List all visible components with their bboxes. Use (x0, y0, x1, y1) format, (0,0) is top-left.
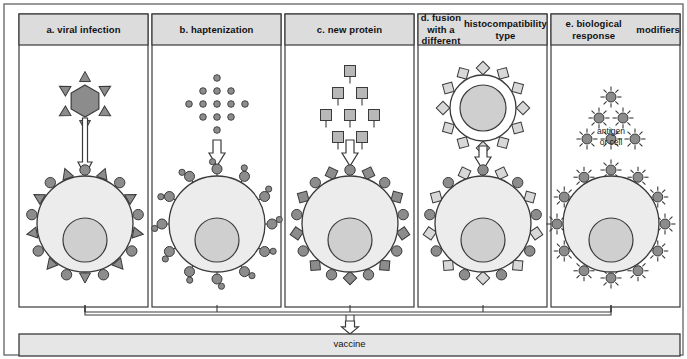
protein-square (369, 110, 380, 121)
hapten-dot (214, 88, 221, 95)
cell-receptor-circle (127, 246, 137, 256)
cell-receptor-circle (157, 219, 167, 229)
starburst-core (552, 219, 562, 229)
panel-header-d (418, 14, 547, 45)
foreign-receptor-square (443, 122, 455, 134)
starburst-core (594, 113, 604, 123)
starburst-core (606, 134, 616, 144)
hapten-dot (214, 127, 221, 134)
vaccine-arrow (342, 321, 359, 334)
hapten-dot (228, 88, 235, 95)
cell-receptor-square-light (513, 260, 523, 270)
starburst-core (653, 246, 663, 256)
foreign-receptor-square (457, 137, 469, 149)
panel-c (285, 14, 414, 307)
vaccine-connector (85, 305, 611, 334)
starburst-core (633, 266, 643, 276)
bound-hapten-dot (266, 186, 272, 192)
starburst-core (606, 273, 616, 283)
cell-nucleus-d (461, 218, 505, 262)
starburst-core (633, 172, 643, 182)
brm-starburst (601, 87, 622, 108)
cell-receptor-square-light (443, 260, 453, 270)
cell-receptor-circle (310, 177, 320, 187)
starburst-core (579, 172, 589, 182)
cell-receptor-circle (326, 270, 336, 280)
foreign-cell-nucleus (460, 85, 506, 131)
brm-starburst (601, 129, 622, 150)
starburst-core (559, 246, 569, 256)
foreign-receptor-square (497, 68, 509, 80)
cell-receptor-circle (240, 267, 250, 277)
hapten-dot (186, 101, 193, 108)
cell-receptor-square (380, 260, 390, 270)
panel-a (19, 14, 148, 307)
cell-receptor-circle (133, 209, 143, 219)
cell-receptor-circle (292, 209, 302, 219)
panel-d (418, 14, 547, 307)
cell-receptor-circle (240, 171, 250, 181)
cell-receptor-circle (267, 219, 277, 229)
cell-receptor-circle (260, 247, 270, 257)
cell-receptor-circle (496, 270, 506, 280)
foreign-receptor-square (512, 82, 524, 94)
cell-receptor-circle (363, 270, 373, 280)
cell-receptor-circle (45, 177, 55, 187)
bound-hapten-dot (162, 256, 168, 262)
bound-hapten-dot (276, 216, 282, 222)
cell-receptor-circle (61, 270, 71, 280)
bound-hapten-dot (249, 273, 255, 279)
bound-hapten-dot (152, 225, 158, 231)
starburst-core (630, 134, 640, 144)
cell-receptor-circle (185, 267, 195, 277)
hapten-dot (214, 75, 221, 82)
protein-square (357, 88, 368, 99)
cell-nucleus-c (328, 218, 372, 262)
cell-receptor-circle (212, 274, 222, 284)
foreign-receptor-square (457, 68, 469, 80)
cell-receptor-circle (212, 164, 222, 174)
starburst-core (618, 113, 628, 123)
bound-hapten-dot (158, 194, 164, 200)
hapten-dot (242, 101, 249, 108)
brm-starburst (625, 129, 646, 150)
cell-receptor-square (310, 260, 320, 270)
brm-starburst (577, 129, 598, 150)
cell-receptor-circle (431, 246, 441, 256)
bound-hapten-dot (241, 165, 247, 171)
hapten-dot (228, 114, 235, 121)
cell-receptor-circle (98, 270, 108, 280)
protein-square (333, 88, 344, 99)
cell-receptor-circle (478, 165, 488, 175)
foreign-receptor-square (512, 122, 524, 134)
panel-b (152, 14, 283, 307)
diagram-canvas (0, 0, 687, 359)
hapten-dot (214, 114, 221, 121)
bound-hapten-dot (209, 159, 215, 165)
cell-receptor-circle (185, 171, 195, 181)
cell-receptor-circle (531, 209, 541, 219)
cell-receptor-circle (260, 192, 270, 202)
panel-header-a (19, 14, 148, 45)
protein-square (345, 110, 356, 121)
starburst-core (559, 192, 569, 202)
hapten-dot (200, 88, 207, 95)
starburst-core (579, 266, 589, 276)
protein-square (333, 132, 344, 143)
foreign-receptor-square (497, 137, 509, 149)
cell-receptor-circle (380, 177, 390, 187)
hapten-dot (200, 101, 207, 108)
hapten-dot (200, 114, 207, 121)
starburst-core (606, 165, 616, 175)
cell-nucleus-e (589, 218, 633, 262)
starburst-core (606, 92, 616, 102)
cell-receptor-circle (33, 246, 43, 256)
immunology-vaccine-strategies-diagram: a. viral infection b. haptenization c. n… (0, 0, 687, 359)
bound-hapten-dot (187, 277, 193, 283)
protein-square (357, 132, 368, 143)
cell-receptor-circle (345, 165, 355, 175)
brm-starburst (589, 108, 610, 129)
cell-receptor-circle (27, 209, 37, 219)
foreign-receptor-square (443, 82, 455, 94)
vaccine-bar (19, 334, 680, 356)
